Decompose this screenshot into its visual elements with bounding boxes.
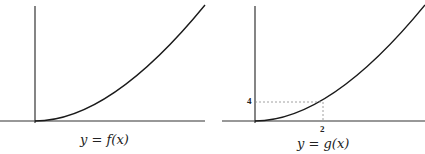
- panel-f: [0, 5, 205, 123]
- caption-g: y = g(x): [297, 136, 349, 151]
- g-curve: [255, 5, 425, 121]
- panel-g: [222, 5, 425, 123]
- tick-x-2: 2: [320, 124, 325, 134]
- graphs-canvas: [0, 0, 425, 154]
- tick-y-4: 4: [247, 96, 252, 106]
- f-curve: [35, 5, 205, 121]
- caption-f: y = f(x): [80, 132, 129, 147]
